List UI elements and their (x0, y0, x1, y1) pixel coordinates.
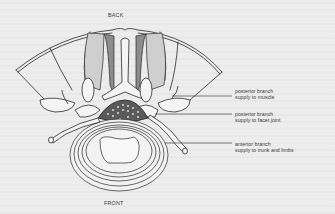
label-back: BACK (108, 12, 123, 18)
vertebra-diagram (0, 0, 335, 214)
label-front: FRONT (104, 200, 124, 206)
callout-posterior-muscle: posterior branch supply to muscle (235, 88, 274, 100)
vertebral-body (70, 119, 168, 191)
callout-posterior-facet: posterior branch supply to facet joint (235, 111, 280, 123)
callout-anterior-branch: anterior branch supply to trunk and limb… (235, 141, 294, 153)
muscle-boundary (16, 29, 222, 73)
